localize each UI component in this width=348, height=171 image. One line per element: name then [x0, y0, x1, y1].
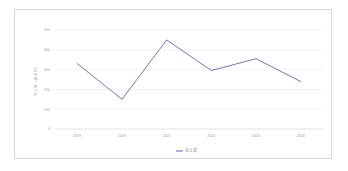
chart-frame: 0100200300400500 20192020202120222023202… [14, 9, 332, 159]
x-tick-label: 2021 [163, 134, 171, 138]
y-axis-title: 売上高（百万円） [33, 64, 38, 96]
chart-svg: 0100200300400500 20192020202120222023202… [15, 10, 333, 160]
line-chart: 0100200300400500 20192020202120222023202… [15, 10, 333, 160]
x-axis-tick-labels: 201920202021202220232024 [73, 134, 304, 138]
y-axis-tick-labels: 0100200300400500 [44, 28, 50, 131]
x-tick-label: 2022 [207, 134, 215, 138]
y-tick-label: 500 [44, 28, 50, 32]
x-tick-label: 2024 [297, 134, 305, 138]
chart-legend: 売上高 [176, 147, 197, 153]
legend-label: 売上高 [185, 147, 197, 153]
gridlines [55, 30, 323, 129]
y-axis-title-group: 売上高（百万円） [33, 64, 38, 96]
x-tick-label: 2019 [73, 134, 81, 138]
x-tick-label: 2023 [252, 134, 260, 138]
y-tick-label: 400 [44, 48, 50, 52]
x-tick-label: 2020 [118, 134, 126, 138]
y-tick-label: 300 [44, 68, 50, 72]
y-tick-label: 100 [44, 108, 50, 112]
y-tick-label: 0 [48, 127, 50, 131]
y-tick-label: 200 [44, 88, 50, 92]
